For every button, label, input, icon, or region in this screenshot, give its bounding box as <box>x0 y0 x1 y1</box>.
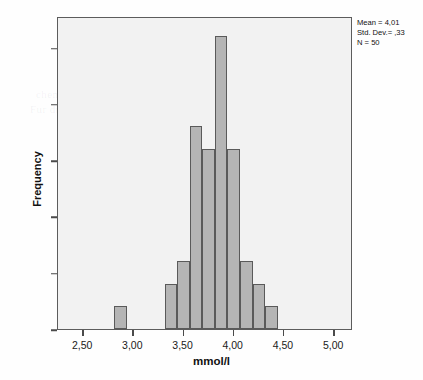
histogram-bar <box>190 126 203 329</box>
x-axis-title: mmol/l <box>0 355 423 367</box>
x-tick-label: 4,50 <box>273 339 293 351</box>
histogram-bar <box>177 261 190 329</box>
plot-area <box>58 18 351 329</box>
x-tick-label: 3,50 <box>172 339 192 351</box>
stat-n: N = 50 <box>357 38 405 48</box>
y-axis-title: Frequency <box>31 134 43 224</box>
x-tick-label: 4,00 <box>223 339 243 351</box>
x-tick-mark <box>233 330 235 336</box>
statistics-annotation: Mean = 4,01 Std. Dev.= ,33 N = 50 <box>357 18 405 49</box>
plot-frame <box>57 17 352 330</box>
x-tick-mark <box>132 330 134 336</box>
x-tick-mark <box>283 330 285 336</box>
histogram-bar <box>253 284 266 329</box>
x-tick-label: 3,00 <box>122 339 142 351</box>
histogram-figure: a Question chemical typischen Blutzucker… <box>0 0 423 380</box>
x-tick-label: 5,00 <box>323 339 343 351</box>
stat-mean: Mean = 4,01 <box>357 18 405 28</box>
histogram-bar <box>215 36 228 329</box>
histogram-bar <box>227 149 240 329</box>
histogram-bar <box>114 306 127 329</box>
x-tick-label: 2,50 <box>72 339 92 351</box>
x-tick-mark <box>82 330 84 336</box>
stat-stddev: Std. Dev.= ,33 <box>357 28 405 38</box>
histogram-bar <box>202 149 215 329</box>
x-tick-mark <box>183 330 185 336</box>
histogram-bar <box>265 306 278 329</box>
x-tick-mark <box>333 330 335 336</box>
histogram-bar <box>240 261 253 329</box>
histogram-bar <box>165 284 178 329</box>
